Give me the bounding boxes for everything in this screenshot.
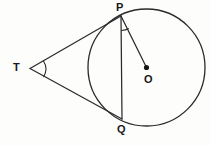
center-point-dot-o	[144, 65, 149, 70]
point-label-q: Q	[117, 124, 126, 135]
geometry-figure: P T O Q	[0, 0, 211, 146]
point-label-p: P	[116, 2, 123, 13]
angle-arc-at-t	[43, 61, 45, 77]
chord-line-pq	[121, 16, 122, 119]
radius-line-po	[121, 16, 147, 68]
point-label-t: T	[13, 62, 20, 73]
point-label-o: O	[144, 74, 153, 85]
geometry-canvas	[0, 0, 211, 146]
